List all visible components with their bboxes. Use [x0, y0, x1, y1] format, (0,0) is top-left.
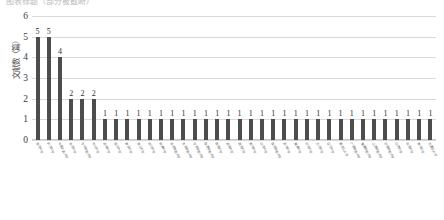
bar[interactable] [47, 37, 51, 140]
bar[interactable] [249, 119, 253, 140]
x-axis-tick-label: 北京大学 [68, 142, 77, 154]
bar[interactable] [92, 99, 96, 140]
bar-slot[interactable]: 1 [369, 16, 380, 140]
bar[interactable] [260, 119, 264, 140]
bar-slot[interactable]: 2 [66, 16, 77, 140]
bar[interactable] [417, 119, 421, 140]
bar-value-label: 1 [417, 109, 421, 118]
x-axis-tick-label: 四川大学 [147, 142, 156, 154]
bar-slot[interactable]: 1 [425, 16, 436, 140]
bar-value-label: 1 [294, 109, 298, 118]
bar-slot[interactable]: 1 [357, 16, 368, 140]
bar-slot[interactable]: 1 [234, 16, 245, 140]
bar[interactable] [58, 57, 62, 140]
bar[interactable] [170, 119, 174, 140]
bar[interactable] [193, 119, 197, 140]
bar-slot[interactable]: 1 [155, 16, 166, 140]
bar-slot[interactable]: 1 [346, 16, 357, 140]
bar-value-label: 2 [69, 89, 73, 98]
bar[interactable] [305, 119, 309, 140]
bar-slot[interactable]: 1 [122, 16, 133, 140]
x-axis-tick-label: 云南大学 [405, 142, 414, 154]
bar-value-label: 1 [260, 109, 264, 118]
bar-slot[interactable]: 5 [43, 16, 54, 140]
bar[interactable] [215, 119, 219, 140]
bar[interactable] [114, 119, 118, 140]
bar-value-label: 1 [159, 109, 163, 118]
bar-slot[interactable]: 1 [200, 16, 211, 140]
bar-slot[interactable]: 1 [290, 16, 301, 140]
bar[interactable] [339, 119, 343, 140]
bar-slot[interactable]: 1 [189, 16, 200, 140]
bar-value-label: 1 [271, 109, 275, 118]
bar-slot[interactable]: 1 [380, 16, 391, 140]
bar[interactable] [125, 119, 129, 140]
bar-slot[interactable]: 1 [268, 16, 279, 140]
bar-slot[interactable]: 1 [99, 16, 110, 140]
bar-value-label: 1 [193, 109, 197, 118]
x-axis-tick-label: 西南大学 [214, 142, 223, 154]
x-axis-tick-label: 陕西师范大学 [203, 142, 214, 159]
bar-slot[interactable]: 1 [133, 16, 144, 140]
bar[interactable] [271, 119, 275, 140]
bar[interactable] [80, 99, 84, 140]
bar-value-label: 4 [58, 47, 62, 56]
x-axis-tick-label: 苏州大学 [281, 142, 290, 154]
bar[interactable] [383, 119, 387, 140]
bar[interactable] [406, 119, 410, 140]
bar[interactable] [361, 119, 365, 140]
bar-slot[interactable]: 1 [245, 16, 256, 140]
bar[interactable] [350, 119, 354, 140]
bar[interactable] [372, 119, 376, 140]
bar[interactable] [282, 119, 286, 140]
bar-value-label: 1 [350, 109, 354, 118]
bar[interactable] [316, 119, 320, 140]
bar-slot[interactable]: 1 [144, 16, 155, 140]
bar-slot[interactable]: 1 [391, 16, 402, 140]
bar-slot[interactable]: 1 [402, 16, 413, 140]
x-axis-tick-label: 内蒙古大学 [427, 142, 437, 157]
bar[interactable] [137, 119, 141, 140]
bar-slot[interactable]: 5 [32, 16, 43, 140]
bar[interactable] [238, 119, 242, 140]
bar[interactable] [395, 119, 399, 140]
bar[interactable] [103, 119, 107, 140]
bar[interactable] [294, 119, 298, 140]
bar-slot[interactable]: 4 [54, 16, 65, 140]
y-axis-tick-label: 1 [23, 114, 28, 124]
bar-slot[interactable]: 1 [111, 16, 122, 140]
clipped-title-strip: 图表标题（部分被截断） [0, 0, 444, 7]
bar-slot[interactable]: 1 [335, 16, 346, 140]
bar-slot[interactable]: 1 [324, 16, 335, 140]
y-axis-tick-label: 5 [23, 32, 28, 42]
bar[interactable] [181, 119, 185, 140]
x-axis-tick-label: 浙江大学 [136, 142, 145, 154]
bar[interactable] [204, 119, 208, 140]
x-axis-tick-label: 武汉大学 [46, 142, 55, 154]
x-axis-tick-label: 湖南大学 [225, 142, 234, 154]
bar-slot[interactable]: 1 [313, 16, 324, 140]
bar[interactable] [69, 99, 73, 140]
bar-value-label: 5 [36, 27, 40, 36]
bar-slot[interactable]: 1 [256, 16, 267, 140]
bar-slot[interactable]: 1 [167, 16, 178, 140]
bar-slot[interactable]: 1 [178, 16, 189, 140]
bar-slot[interactable]: 1 [279, 16, 290, 140]
bar[interactable] [327, 119, 331, 140]
bar-slot[interactable]: 1 [414, 16, 425, 140]
x-axis-tick-label: 中国人民大学 [57, 142, 68, 159]
x-axis-tick-label: 河北大学 [304, 142, 313, 154]
bar[interactable] [159, 119, 163, 140]
bar-slot[interactable]: 1 [223, 16, 234, 140]
bar-slot[interactable]: 2 [88, 16, 99, 140]
bar[interactable] [428, 119, 432, 140]
bar[interactable] [226, 119, 230, 140]
bar-slot[interactable]: 1 [212, 16, 223, 140]
bar[interactable] [36, 37, 40, 140]
y-axis-tick-label: 0 [23, 135, 28, 145]
bar[interactable] [148, 119, 152, 140]
bar-value-label: 1 [383, 109, 387, 118]
x-axis-tick-label: 河南师范大学 [382, 142, 393, 159]
bar-slot[interactable]: 1 [301, 16, 312, 140]
bar-slot[interactable]: 2 [77, 16, 88, 140]
